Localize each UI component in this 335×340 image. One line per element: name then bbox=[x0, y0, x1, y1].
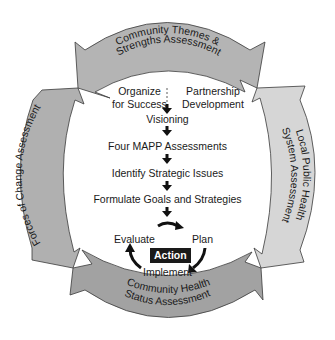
action-badge: Action bbox=[150, 248, 191, 263]
identify-strategic-issues-step: Identify Strategic Issues bbox=[0, 167, 335, 180]
down-arrow-icon bbox=[162, 207, 172, 217]
four-mapp-assessments-step: Four MAPP Assessments bbox=[0, 140, 335, 153]
implement-step: Implement bbox=[0, 266, 335, 279]
organize-line1: Organize bbox=[112, 85, 167, 98]
organize-line2: for Success bbox=[112, 98, 167, 111]
partnership-line1: Partnership bbox=[182, 85, 244, 98]
plan-step: Plan bbox=[192, 233, 213, 246]
down-arrow-icon bbox=[162, 126, 172, 136]
down-arrow-icon bbox=[162, 154, 172, 164]
formulate-goals-step: Formulate Goals and Strategies bbox=[0, 193, 335, 206]
down-arrow-icon bbox=[162, 181, 172, 191]
partnership-development-step: Partnership Development bbox=[182, 85, 244, 111]
evaluate-step: Evaluate bbox=[114, 233, 155, 246]
partnership-line2: Development bbox=[182, 98, 244, 111]
organize-for-success-step: Organize for Success bbox=[112, 85, 167, 111]
visioning-step: Visioning bbox=[0, 113, 335, 126]
